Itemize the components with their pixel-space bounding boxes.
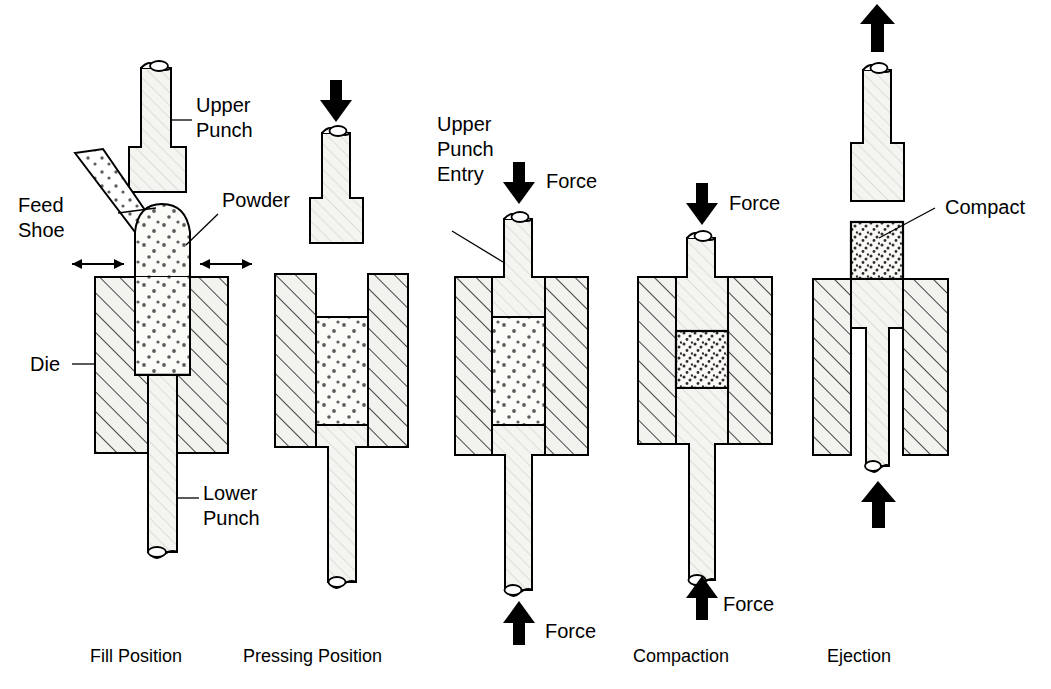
- label-compact: Compact: [945, 196, 1025, 218]
- caption-fill-position: Fill Position: [90, 646, 182, 666]
- label-upper-punch-entry-line2: Punch: [437, 138, 494, 160]
- label-powder: Powder: [222, 189, 290, 211]
- label-feed-shoe-line1: Feed: [18, 194, 64, 216]
- caption-pressing-position: Pressing Position: [243, 646, 382, 666]
- label-upper-punch-line2: Punch: [196, 119, 253, 141]
- label-lower-punch-line2: Punch: [203, 507, 260, 529]
- force-label-entry-bottom: Force: [545, 620, 596, 642]
- lower-punch-fill: [148, 375, 177, 558]
- label-upper-punch-entry-line1: Upper: [437, 113, 492, 135]
- compacted-powder: [676, 331, 728, 388]
- label-feed-shoe-line2: Shoe: [18, 219, 65, 241]
- caption-compaction: Compaction: [633, 646, 729, 666]
- force-label-compaction-top: Force: [729, 192, 780, 214]
- label-upper-punch-line1: Upper: [196, 94, 251, 116]
- label-lower-punch-line1: Lower: [203, 482, 258, 504]
- label-die: Die: [30, 353, 60, 375]
- compact-ejected: [851, 222, 903, 279]
- force-label-compaction-bottom: Force: [723, 593, 774, 615]
- force-label-entry-top: Force: [546, 170, 597, 192]
- caption-ejection: Ejection: [827, 646, 891, 666]
- powder-fill: [135, 204, 190, 375]
- label-upper-punch-entry-line3: Entry: [437, 163, 484, 185]
- diagram-canvas: Upper Punch Feed Shoe Powder Die Lower P…: [0, 0, 1051, 689]
- powder-entry: [492, 317, 545, 425]
- powder-pressing: [316, 317, 368, 425]
